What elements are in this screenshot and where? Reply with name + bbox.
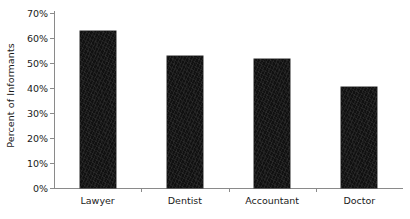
y-axis-tick-label: 40% [27,83,48,94]
bar-texture [341,87,377,188]
y-axis-tick-label: 0% [33,183,48,194]
y-axis-tick-mark [50,38,54,39]
y-axis-tick-label: 70% [27,8,48,19]
y-axis-title-label: Percent of Informants [5,43,16,148]
y-axis-tick-mark [50,163,54,164]
y-axis-tick-mark [50,88,54,89]
y-axis-tick-label: 60% [27,33,48,44]
bar-texture [167,56,203,189]
bar-texture [80,31,116,189]
y-axis-tick-label: 20% [27,133,48,144]
x-axis-separator [316,188,317,192]
x-axis-tick-label: Accountant [245,195,299,206]
x-axis-tick-label: Doctor [343,195,375,206]
y-axis-tick-label: 50% [27,58,48,69]
bar [254,59,290,188]
bar [80,31,116,189]
y-axis-tick-mark [50,13,54,14]
bar [167,56,203,189]
y-axis-tick-mark [50,63,54,64]
bar-texture [254,59,290,188]
x-axis-separator [229,188,230,192]
y-axis-tick-label: 10% [27,158,48,169]
x-axis-tick-label: Lawyer [80,195,114,206]
y-axis-tick-mark [50,138,54,139]
x-axis-separator [141,188,142,192]
y-axis-tick-mark [50,113,54,114]
bar-chart: Percent of Informants 0%10%20%30%40%50%6… [0,0,410,219]
y-axis-title: Percent of Informants [0,0,20,190]
bar [341,87,377,188]
y-axis-tick-label: 30% [27,108,48,119]
plot-area: 0%10%20%30%40%50%60%70% [54,13,403,188]
y-axis-tick-mark [50,188,54,189]
x-axis-tick-label: Dentist [168,195,202,206]
